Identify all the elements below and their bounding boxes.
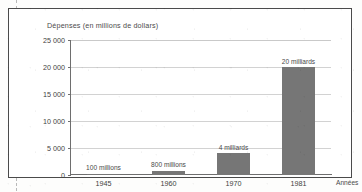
x-axis-tick-label: 1981: [291, 179, 307, 188]
bar-value-label: 800 millions: [151, 161, 186, 168]
y-axis-tick-mark: [68, 40, 71, 41]
crop-mark-bottom: [16, 178, 17, 191]
scanned-page-background: Dépenses (en millions de dollars) 05 000…: [0, 0, 362, 192]
y-axis-tick-mark: [68, 94, 71, 95]
chart-figure-frame: Dépenses (en millions de dollars) 05 000…: [8, 8, 352, 178]
y-axis-tick-mark: [68, 121, 71, 122]
x-axis-tick-labels: 1945196019701981: [71, 179, 331, 192]
x-axis-tick-label: 1945: [96, 179, 112, 188]
y-axis-tick-label: 5 000: [47, 144, 65, 153]
bar[interactable]: [282, 67, 315, 175]
bar[interactable]: [152, 171, 185, 175]
x-axis-tick-label: 1970: [226, 179, 242, 188]
chart-title: Dépenses (en millions de dollars): [47, 21, 158, 30]
y-axis-tick-mark: [68, 175, 71, 176]
y-axis-tick-label: 15 000: [43, 90, 65, 99]
y-axis-tick-label: 25 000: [43, 36, 65, 45]
bar-value-label: 100 millions: [86, 164, 121, 171]
bar-value-label: 4 milliards: [219, 144, 249, 151]
y-axis-tick-label: 20 000: [43, 63, 65, 72]
y-axis-tick-mark: [68, 67, 71, 68]
x-axis-tick-label: 1960: [161, 179, 177, 188]
bar[interactable]: [87, 174, 120, 175]
gridline: [71, 40, 331, 41]
x-axis-title: Années: [336, 179, 358, 186]
bar-value-label: 20 milliards: [282, 58, 315, 65]
bar[interactable]: [217, 153, 250, 175]
y-axis-tick-mark: [68, 148, 71, 149]
plot-area: 100 millions800 millions4 milliards20 mi…: [71, 40, 331, 175]
y-axis-tick-labels: 05 00010 00015 00020 00025 000: [9, 40, 65, 175]
y-axis-tick-label: 0: [61, 171, 65, 180]
y-axis-tick-label: 10 000: [43, 117, 65, 126]
